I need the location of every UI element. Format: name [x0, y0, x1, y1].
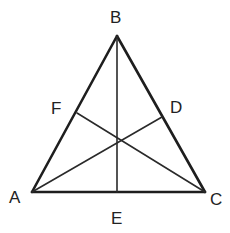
label-c: C: [210, 190, 222, 209]
triangle-diagram: B A C E F D: [0, 0, 230, 233]
label-d: D: [170, 98, 182, 117]
label-b: B: [110, 8, 121, 27]
label-e: E: [111, 209, 122, 228]
label-a: A: [9, 188, 21, 207]
edge-ab: [32, 36, 117, 192]
label-f: F: [51, 99, 61, 118]
edge-bc: [117, 36, 205, 192]
segment-cf: [77, 113, 205, 192]
